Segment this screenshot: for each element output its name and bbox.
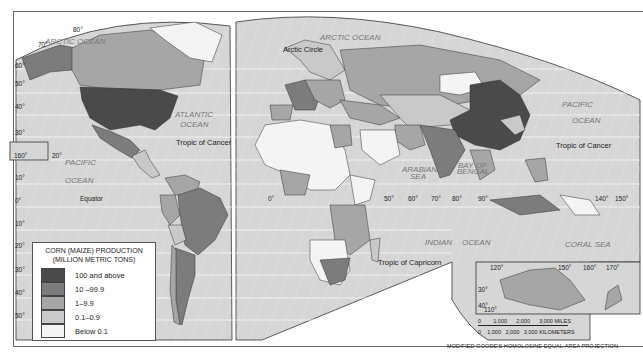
svg-text:60°: 60° <box>408 195 418 202</box>
svg-text:70°: 70° <box>38 41 48 48</box>
svg-text:60°: 60° <box>15 62 25 69</box>
svg-text:Arctic Circle: Arctic Circle <box>283 45 323 54</box>
svg-text:Tropic of Cancer: Tropic of Cancer <box>176 138 232 147</box>
svg-text:Equator: Equator <box>80 195 104 203</box>
svg-text:PACIFIC: PACIFIC <box>562 100 593 109</box>
svg-text:80°: 80° <box>73 26 83 33</box>
legend-swatch <box>41 324 65 338</box>
svg-text:160°: 160° <box>583 264 597 271</box>
svg-text:Tropic of Cancer: Tropic of Cancer <box>556 141 612 150</box>
legend-item: 0.1–0.9 <box>41 310 155 324</box>
svg-text:30°: 30° <box>15 266 25 273</box>
legend-swatch <box>41 282 65 296</box>
iberia <box>270 105 293 120</box>
svg-text:OCEAN: OCEAN <box>65 176 94 185</box>
legend-swatch <box>41 268 65 282</box>
svg-text:BENGAL: BENGAL <box>457 167 489 176</box>
svg-text:0°: 0° <box>268 195 275 202</box>
svg-text:10°: 10° <box>15 174 25 181</box>
svg-text:20°: 20° <box>52 152 62 159</box>
legend-item: 100 and above <box>41 268 155 282</box>
legend-swatch <box>41 310 65 324</box>
svg-text:CORAL SEA: CORAL SEA <box>565 240 611 249</box>
legend-item: Below 0.1 <box>41 324 155 338</box>
svg-text:90°: 90° <box>478 195 488 202</box>
scale-bar: 0 1,000 2,000 3,000 MILES 0 1,000 2,000 … <box>478 318 575 335</box>
svg-text:SEA: SEA <box>410 172 426 181</box>
svg-text:160°: 160° <box>14 152 28 159</box>
legend-item: 1–9.9 <box>41 296 155 310</box>
legend-swatch <box>41 296 65 310</box>
svg-text:80°: 80° <box>452 195 462 202</box>
svg-text:150°: 150° <box>558 264 572 271</box>
svg-text:PACIFIC: PACIFIC <box>65 158 96 167</box>
svg-text:40°: 40° <box>15 289 25 296</box>
svg-text:170°: 170° <box>606 264 620 271</box>
svg-text:30°: 30° <box>15 129 25 136</box>
svg-text:OCEAN: OCEAN <box>572 116 601 125</box>
svg-text:OCEAN: OCEAN <box>180 120 209 129</box>
svg-text:70°: 70° <box>431 195 441 202</box>
svg-text:110°: 110° <box>484 306 497 313</box>
legend-item: 10 –99.9 <box>41 282 155 296</box>
svg-text:10°: 10° <box>15 220 25 227</box>
svg-text:INDIAN: INDIAN <box>425 238 452 247</box>
svg-text:120°: 120° <box>490 264 504 271</box>
svg-text:20°: 20° <box>15 242 25 249</box>
svg-text:ARCTIC OCEAN: ARCTIC OCEAN <box>44 37 106 46</box>
svg-text:40°: 40° <box>15 103 25 110</box>
svg-text:50°: 50° <box>15 80 25 87</box>
svg-text:50°: 50° <box>384 195 394 202</box>
projection-label: MODIFIED GOODE'S HOMOLOSINE EQUAL-AREA P… <box>447 343 618 349</box>
svg-text:ARCTIC OCEAN: ARCTIC OCEAN <box>319 33 381 42</box>
svg-text:150°: 150° <box>615 195 629 202</box>
svg-text:OCEAN: OCEAN <box>462 238 491 247</box>
svg-text:140°: 140° <box>595 195 609 202</box>
legend: CORN (MAIZE) PRODUCTION (MILLION METRIC … <box>32 242 156 341</box>
legend-title: CORN (MAIZE) PRODUCTION (MILLION METRIC … <box>33 246 155 264</box>
svg-text:ATLANTIC: ATLANTIC <box>174 110 213 119</box>
svg-text:Tropic of Capricorn: Tropic of Capricorn <box>378 258 442 267</box>
svg-text:30°: 30° <box>478 286 488 293</box>
svg-text:0°: 0° <box>15 197 22 204</box>
svg-text:50°: 50° <box>15 312 25 319</box>
